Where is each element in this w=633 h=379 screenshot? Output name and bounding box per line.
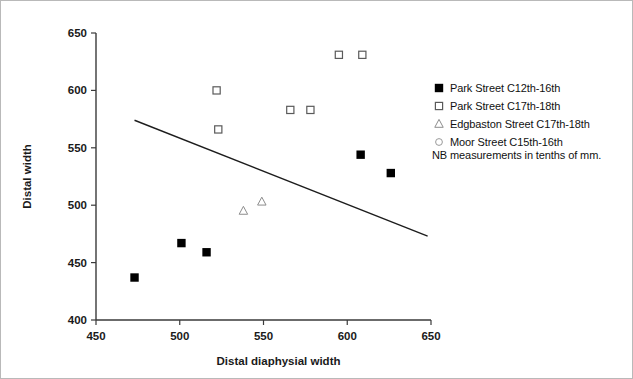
data-point xyxy=(177,239,185,247)
legend-item-label: Park Street C12th-16th xyxy=(450,82,560,94)
trend-line xyxy=(135,120,428,236)
axis-ticks xyxy=(91,33,431,325)
legend-item-label: Moor Street C15th-16th xyxy=(450,136,563,148)
y-tick-label: 550 xyxy=(68,142,87,154)
x-axis-title: Distal diaphysial width xyxy=(217,355,341,367)
data-point xyxy=(215,126,222,133)
data-point xyxy=(202,248,210,256)
x-tick-label: 600 xyxy=(338,330,357,342)
legend-item: Park Street C17th-18th xyxy=(432,98,628,114)
data-point xyxy=(359,51,366,58)
data-points xyxy=(130,51,395,282)
y-tick-label: 500 xyxy=(68,199,87,211)
regression-line xyxy=(135,120,428,236)
legend-item-label: Edgbaston Street C17th-18th xyxy=(450,118,590,130)
legend-item-label: Park Street C17th-18th xyxy=(450,100,560,112)
legend-marker-open-triangle-icon xyxy=(432,118,446,130)
scatter-chart-figure: 400450500550600650450500550600650 Distal… xyxy=(0,0,633,379)
data-point xyxy=(356,150,364,158)
legend-marker-filled-square-icon xyxy=(432,82,446,94)
legend-item: Edgbaston Street C17th-18th xyxy=(432,116,628,132)
series-0 xyxy=(130,150,395,281)
data-point xyxy=(307,106,314,113)
y-axis-title: Distal width xyxy=(21,144,33,209)
x-tick-label: 550 xyxy=(254,330,273,342)
y-tick-label: 450 xyxy=(68,257,87,269)
legend: Park Street C12th-16thPark Street C17th-… xyxy=(432,80,628,152)
y-tick-label: 400 xyxy=(68,314,87,326)
legend-marker xyxy=(435,102,442,109)
series-1 xyxy=(213,51,366,133)
data-point xyxy=(387,169,395,177)
legend-note: NB measurements in tenths of mm. xyxy=(432,149,601,161)
data-point xyxy=(335,51,342,58)
data-point xyxy=(130,273,138,281)
legend-marker xyxy=(435,119,443,127)
legend-item: Moor Street C15th-16th xyxy=(432,134,628,150)
data-point xyxy=(213,87,220,94)
x-tick-label: 650 xyxy=(421,330,440,342)
axis-tick-labels: 400450500550600650450500550600650 xyxy=(68,27,441,342)
data-point xyxy=(239,206,247,214)
data-point xyxy=(258,197,266,205)
legend-marker-open-circle-icon xyxy=(432,136,446,148)
data-point xyxy=(287,106,294,113)
y-tick-label: 650 xyxy=(68,27,87,39)
legend-item: Park Street C12th-16th xyxy=(432,80,628,96)
legend-marker xyxy=(436,139,443,146)
y-tick-label: 600 xyxy=(68,84,87,96)
axes xyxy=(96,33,431,320)
series-2 xyxy=(239,197,266,214)
legend-marker xyxy=(435,84,443,92)
x-tick-label: 450 xyxy=(86,330,105,342)
x-tick-label: 500 xyxy=(170,330,189,342)
plot-area: 400450500550600650450500550600650 Distal… xyxy=(1,1,633,379)
legend-marker-open-square-icon xyxy=(432,100,446,112)
